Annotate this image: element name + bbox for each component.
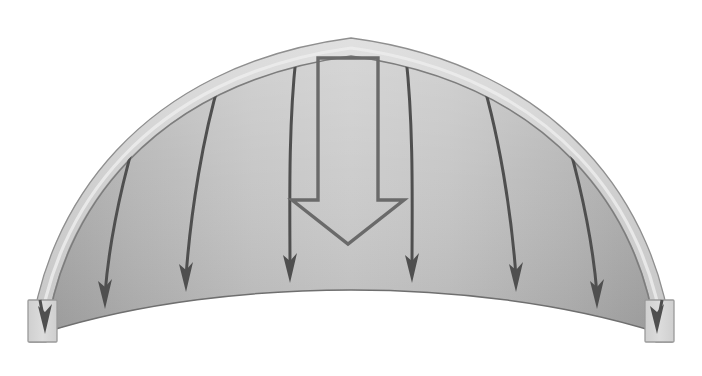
diagram-canvas xyxy=(0,0,702,376)
dome-soffit xyxy=(46,56,656,338)
dome-load-path-svg xyxy=(0,0,702,376)
